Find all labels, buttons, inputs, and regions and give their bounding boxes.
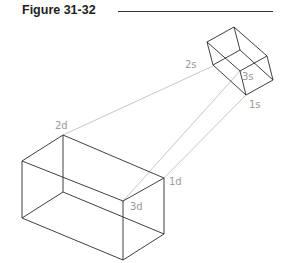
small-cube	[207, 27, 273, 95]
label-2d: 2d	[55, 120, 68, 131]
label-2s: 2s	[185, 59, 197, 70]
projection-line-1	[164, 95, 246, 178]
label-3s: 3s	[242, 71, 254, 82]
perspective-diagram: 2s 3s 1s 2d 1d 3d	[0, 0, 288, 263]
label-3d: 3d	[130, 201, 143, 212]
label-1d: 1d	[169, 176, 182, 187]
projection-lines	[63, 66, 246, 201]
projection-line-2	[63, 66, 213, 135]
label-1s: 1s	[249, 99, 261, 110]
large-box	[22, 135, 164, 260]
